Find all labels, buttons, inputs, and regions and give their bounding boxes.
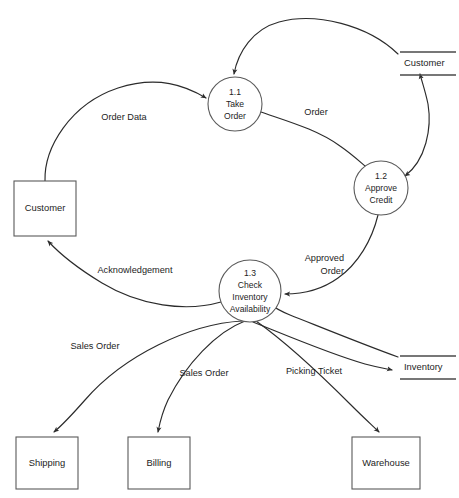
flow-edge-inventory-request [253,322,392,370]
process-1-2-number: 1.2 [375,171,387,181]
process-1-1-number: 1.1 [229,87,241,97]
flow-label-sales-order-shipping: Sales Order [70,341,119,351]
flow-edge-credit-check [405,74,429,176]
process-1-3-number: 1.3 [244,268,256,278]
process-1-1-label-line1: Take [226,99,244,109]
data-store-customer[interactable]: Customer [400,52,456,75]
diagram-svg: 1.1 Take Order 1.2 Approve Credit 1.3 Ch… [0,0,459,498]
flow-label-sales-order-billing: Sales Order [179,368,228,378]
flow-edge-customer-store-to-take-order [234,19,398,74]
process-1-2-label-line2: Credit [370,195,394,205]
entity-node-customer[interactable]: Customer [14,181,76,236]
process-1-3-label-line3: Availability [230,304,271,314]
flow-label-order: Order [304,107,328,117]
data-store-inventory-label: Inventory [404,361,443,372]
process-node-1-1[interactable]: 1.1 Take Order [208,77,262,131]
flow-label-approved-order-line2: Order [321,266,345,276]
data-flow-diagram-canvas: 1.1 Take Order 1.2 Approve Credit 1.3 Ch… [0,0,459,498]
entities-layer: Customer Shipping Billing Warehouse [14,181,420,489]
entity-node-warehouse[interactable]: Warehouse [352,437,420,489]
flow-labels-layer: Order Data Order Approved Order Acknowle… [70,107,344,378]
entity-label-shipping: Shipping [29,457,66,468]
process-1-2-label-line1: Approve [365,183,397,193]
entity-node-billing[interactable]: Billing [128,437,190,489]
flow-edge-order-data [45,82,206,181]
entity-label-warehouse: Warehouse [362,457,410,468]
process-node-1-2[interactable]: 1.2 Approve Credit [354,161,408,215]
flow-edge-order [261,112,370,170]
process-1-1-label-line2: Order [224,111,246,121]
data-store-customer-label: Customer [404,57,445,68]
flow-label-picking-ticket: Picking Ticket [286,366,343,376]
process-1-3-label-line2: Inventory [232,292,268,302]
flow-label-approved-order-line1: Approved [305,253,344,263]
process-1-3-label-line1: Check [238,280,263,290]
entity-label-customer: Customer [25,202,66,213]
data-stores-layer: Customer Inventory [400,52,456,379]
entity-node-shipping[interactable]: Shipping [16,437,78,489]
process-node-1-3[interactable]: 1.3 Check Inventory Availability [219,260,281,322]
flow-label-order-data: Order Data [101,112,147,122]
data-store-inventory[interactable]: Inventory [400,356,456,379]
flow-label-acknowledgement: Acknowledgement [97,265,173,275]
flow-edge-picking-ticket [256,321,379,432]
entity-label-billing: Billing [146,457,171,468]
